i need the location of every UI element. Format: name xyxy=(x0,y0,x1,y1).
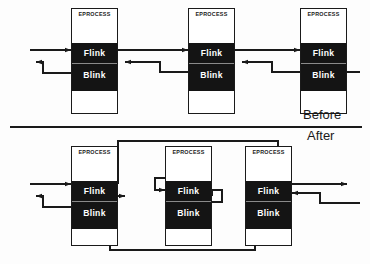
flink-label: Flink xyxy=(84,48,106,58)
eprocess-block[interactable]: EPROCESS Flink Blink xyxy=(71,8,118,114)
eprocess-block[interactable]: EPROCESS Flink Blink xyxy=(300,8,347,114)
blink-field[interactable]: Blink xyxy=(301,64,346,85)
flink-label: Flink xyxy=(258,186,280,196)
flink-field[interactable]: Flink xyxy=(301,43,346,64)
before-label: Before xyxy=(303,107,341,122)
blink-label: Blink xyxy=(257,208,280,218)
wire-after-in-blink xyxy=(292,193,360,203)
block-header-label: EPROCESS xyxy=(253,149,285,155)
flink-label: Flink xyxy=(313,48,335,58)
blink-field[interactable]: Blink xyxy=(72,64,117,85)
wire-after-self-blink-loop xyxy=(212,190,222,202)
blink-label: Blink xyxy=(83,70,106,80)
block-footer xyxy=(166,229,211,245)
blink-label: Blink xyxy=(200,70,223,80)
blink-field[interactable]: Blink xyxy=(246,202,291,223)
flink-label: Flink xyxy=(84,186,106,196)
wire-before-blink-2-1 xyxy=(125,62,188,72)
blink-field[interactable]: Blink xyxy=(72,202,117,223)
flink-field[interactable]: Flink xyxy=(166,181,211,202)
eprocess-block[interactable]: EPROCESS Flink Blink xyxy=(71,146,118,246)
block-header-label: EPROCESS xyxy=(79,11,111,17)
flink-field[interactable]: Flink xyxy=(189,43,234,64)
block-header: EPROCESS xyxy=(72,147,117,181)
blink-field[interactable]: Blink xyxy=(189,64,234,85)
blink-label: Blink xyxy=(312,70,335,80)
block-header: EPROCESS xyxy=(166,147,211,181)
block-header: EPROCESS xyxy=(189,9,234,43)
flink-label: Flink xyxy=(201,48,223,58)
eprocess-block[interactable]: EPROCESS Flink Blink xyxy=(188,8,235,114)
blink-label: Blink xyxy=(83,208,106,218)
wire-before-blink-3-2 xyxy=(242,62,300,72)
diagram-canvas: EPROCESS Flink Blink EPROCESS Flink Blin… xyxy=(0,0,370,264)
block-header: EPROCESS xyxy=(72,9,117,43)
block-footer xyxy=(72,91,117,113)
eprocess-block[interactable]: EPROCESS Flink Blink xyxy=(245,146,292,246)
blink-label: Blink xyxy=(177,208,200,218)
blink-field[interactable]: Blink xyxy=(166,202,211,223)
block-header-label: EPROCESS xyxy=(173,149,205,155)
block-footer xyxy=(72,229,117,245)
flink-field[interactable]: Flink xyxy=(72,181,117,202)
flink-label: Flink xyxy=(178,186,200,196)
block-footer xyxy=(246,229,291,245)
block-header: EPROCESS xyxy=(246,147,291,181)
block-header-label: EPROCESS xyxy=(196,11,228,17)
block-header-label: EPROCESS xyxy=(79,149,111,155)
eprocess-block-unlinked[interactable]: EPROCESS Flink Blink xyxy=(165,146,212,246)
block-header: EPROCESS xyxy=(301,9,346,43)
flink-field[interactable]: Flink xyxy=(72,43,117,64)
wire-after-self-flink-loop xyxy=(155,178,165,190)
flink-field[interactable]: Flink xyxy=(246,181,291,202)
block-header-label: EPROCESS xyxy=(308,11,340,17)
after-label: After xyxy=(307,128,334,143)
block-footer xyxy=(189,91,234,113)
